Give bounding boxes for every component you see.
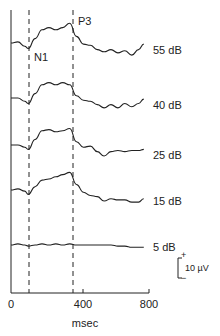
x-tick-label-400: 400 (74, 299, 92, 310)
waveform-55db (11, 23, 144, 55)
x-axis-label: msec (72, 318, 98, 329)
n1-label: N1 (34, 52, 48, 63)
x-tick-label-0: 0 (8, 299, 14, 310)
scale-plus: + (181, 251, 186, 260)
series-label-25db: 25 dB (153, 150, 182, 161)
series-label-5db: 5 dB (153, 242, 176, 253)
scale-minus: − (181, 274, 186, 283)
series-label-40db: 40 dB (153, 100, 182, 111)
p3-label: P3 (78, 16, 91, 27)
series-label-15db: 15 dB (153, 196, 182, 207)
x-tick-label-800: 800 (140, 299, 158, 310)
scale-value: 10 µV (185, 264, 209, 273)
waveform-5db (11, 244, 144, 247)
waveform-25db (11, 129, 144, 157)
series-label-55db: 55 dB (153, 45, 182, 56)
waveform-15db (11, 172, 144, 202)
waveforms (11, 23, 144, 247)
waveform-40db (11, 83, 144, 108)
erp-chart (0, 0, 220, 336)
